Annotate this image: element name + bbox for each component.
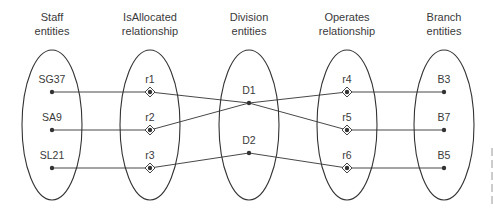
- node-label-r1: r1: [145, 73, 154, 85]
- node-label-sa9: SA9: [42, 111, 62, 123]
- relationship-dot-r2: [148, 128, 152, 132]
- division-set-ellipse: [219, 50, 279, 200]
- relationship-dot-r3: [148, 166, 152, 170]
- entity-dot-b7: [442, 128, 446, 132]
- column-headers: StaffentitiesIsAllocatedrelationshipDivi…: [35, 11, 462, 37]
- node-label-b3: B3: [438, 73, 451, 85]
- link-r3-d2: [150, 153, 249, 168]
- node-label-d1: D1: [242, 84, 256, 96]
- relationship-dot-r1: [148, 90, 152, 94]
- relationship-dot-r6: [345, 166, 349, 170]
- link-r2-d1: [150, 103, 249, 130]
- er-occurrence-diagram: StaffentitiesIsAllocatedrelationshipDivi…: [0, 0, 493, 212]
- relationship-dot-r4: [345, 90, 349, 94]
- occurrence-nodes: SG37SA9SL21r1r2r3D1D2r4r5r6B3B7B5: [39, 73, 451, 173]
- entity-dot-d2: [247, 151, 251, 155]
- column-header-operates: relationship: [319, 25, 375, 37]
- entity-set-ellipses: [22, 50, 474, 200]
- relationship-dot-r5: [345, 128, 349, 132]
- node-label-r4: r4: [342, 73, 351, 85]
- node-label-sg37: SG37: [39, 73, 66, 85]
- node-label-r3: r3: [145, 149, 154, 161]
- column-header-branch: Branch: [427, 11, 462, 23]
- node-label-r5: r5: [342, 111, 351, 123]
- link-r1-d1: [150, 92, 249, 103]
- link-d1-r5: [249, 103, 347, 130]
- column-header-staff: Staff: [41, 11, 64, 23]
- column-header-division: entities: [232, 25, 267, 37]
- node-label-r6: r6: [342, 149, 351, 161]
- entity-dot-sl21: [50, 166, 54, 170]
- entity-dot-sa9: [50, 128, 54, 132]
- column-header-division: Division: [230, 11, 269, 23]
- column-header-staff: entities: [35, 25, 70, 37]
- node-label-sl21: SL21: [40, 149, 65, 161]
- node-label-b7: B7: [438, 111, 451, 123]
- column-header-operates: Operates: [324, 11, 370, 23]
- link-d1-r4: [249, 92, 347, 103]
- node-label-d2: D2: [242, 134, 256, 146]
- entity-dot-b5: [442, 166, 446, 170]
- node-label-r2: r2: [145, 111, 154, 123]
- column-header-isallocated: relationship: [122, 25, 178, 37]
- column-header-isallocated: IsAllocated: [123, 11, 177, 23]
- entity-dot-sg37: [50, 90, 54, 94]
- entity-dot-b3: [442, 90, 446, 94]
- entity-dot-d1: [247, 101, 251, 105]
- node-label-b5: B5: [438, 149, 451, 161]
- column-header-branch: entities: [427, 25, 462, 37]
- link-d2-r6: [249, 153, 347, 168]
